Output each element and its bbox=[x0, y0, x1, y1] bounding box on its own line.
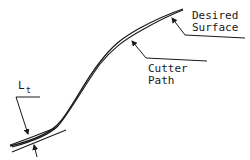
tolerance-arrow-bottom bbox=[34, 145, 37, 157]
tolerance-label: L bbox=[18, 79, 25, 92]
desired-surface-label-line2: Surface bbox=[192, 21, 238, 34]
cutter-path-leader bbox=[132, 41, 207, 61]
tolerance-leader-top bbox=[16, 97, 40, 134]
cutter-lens-segment bbox=[10, 128, 55, 145]
tolerance-label-subscript: t bbox=[26, 86, 31, 95]
diagram-canvas: Desired Surface Cutter Path L t bbox=[0, 0, 250, 160]
cutter-path-label-line2: Path bbox=[148, 74, 175, 87]
